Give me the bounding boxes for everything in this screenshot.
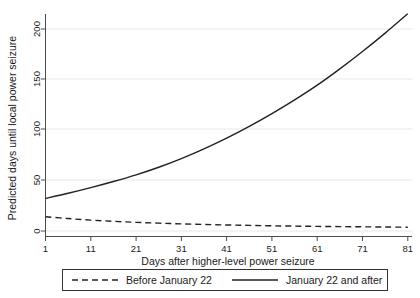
y-tick-label-0: 0 bbox=[31, 228, 42, 233]
x-tick-label-11: 11 bbox=[86, 243, 96, 254]
legend-label-january-22-and-after: January 22 and after bbox=[286, 274, 383, 286]
legend-label-before-january-22: Before January 22 bbox=[126, 274, 212, 286]
x-tick-label-21: 21 bbox=[131, 243, 142, 254]
y-tick-label-100: 100 bbox=[31, 121, 42, 137]
chart-figure: 0 50 100 150 200 Predicted days until lo… bbox=[0, 0, 420, 298]
y-tick-label-150: 150 bbox=[31, 71, 42, 87]
x-tick-label-51: 51 bbox=[267, 243, 278, 254]
x-tick-label-81: 81 bbox=[403, 243, 414, 254]
x-tick-label-31: 31 bbox=[176, 243, 187, 254]
y-tick-label-50: 50 bbox=[31, 175, 42, 186]
x-tick-label-61: 61 bbox=[312, 243, 323, 254]
x-tick-label-71: 71 bbox=[357, 243, 368, 254]
y-axis-title: Predicted days until local power seizure bbox=[6, 36, 18, 221]
legend: Before January 22 January 22 and after bbox=[63, 270, 388, 291]
x-axis-title: Days after higher-level power seizure bbox=[141, 255, 314, 267]
x-tick-label-1: 1 bbox=[43, 243, 48, 254]
x-tick-label-41: 41 bbox=[221, 243, 232, 254]
y-tick-label-200: 200 bbox=[31, 21, 42, 37]
line-chart: 0 50 100 150 200 Predicted days until lo… bbox=[0, 0, 420, 298]
